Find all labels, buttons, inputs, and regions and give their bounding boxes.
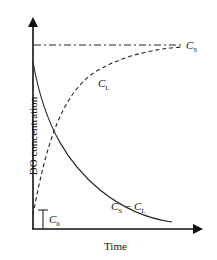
c0-label: C0 [49,213,60,228]
x-axis-label: Time [104,240,127,252]
deficit-label: CS − CL [111,200,146,215]
cs-label: CS [186,39,197,54]
cl-curve [33,47,183,215]
y-axis-label: DO concentration [27,86,39,186]
cl-label: CL [98,77,110,92]
